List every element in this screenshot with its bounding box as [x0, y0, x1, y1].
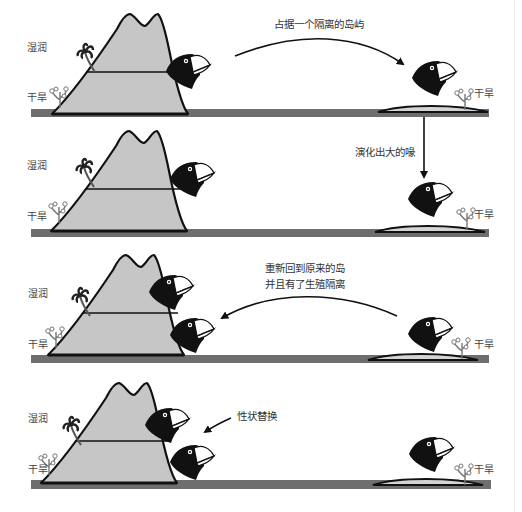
palm-tree-icon [77, 159, 94, 187]
label-dry: 干旱 [28, 464, 48, 476]
label-wet: 湿润 [28, 413, 48, 425]
palm-tree-icon [64, 417, 81, 445]
finch-head-large-beak-icon [409, 437, 453, 472]
label-wet: 湿润 [28, 288, 48, 300]
mainland-mountain [52, 14, 188, 114]
label-dry: 干旱 [28, 339, 48, 351]
panel-step-2: 湿润 干旱 干旱 演化出大的喙 [0, 125, 522, 250]
cactus-icon [457, 208, 475, 229]
displacement-arrow [205, 418, 231, 432]
migration-arrow [235, 39, 403, 64]
caption-step-3-line-1: 重新回到原来的岛 [265, 261, 345, 275]
label-dry: 干旱 [474, 88, 494, 100]
small-island [373, 479, 483, 485]
caption-step-3-line-2: 并且有了生殖隔离 [265, 277, 345, 291]
return-arrow [222, 297, 397, 318]
label-dry: 干旱 [27, 92, 47, 104]
caption-step-4: 性状替换 [237, 409, 277, 423]
panel-step-1: 湿润 干旱 干旱 占据一个隔离的岛屿 [0, 0, 522, 125]
finch-head-large-beak-icon [408, 317, 452, 352]
label-dry: 干旱 [474, 464, 494, 476]
panel-3-graphic [0, 250, 522, 380]
panel-2-graphic [0, 125, 522, 250]
caption-step-1: 占据一个隔离的岛屿 [274, 17, 364, 31]
label-wet: 湿润 [27, 160, 47, 172]
palm-tree-icon [73, 288, 90, 316]
finch-head-large-beak-icon [170, 445, 214, 480]
finch-head-icon [412, 61, 456, 96]
label-dry: 干旱 [474, 209, 494, 221]
panel-step-4: 湿润 干旱 干旱 性状替换 [0, 380, 522, 512]
caption-step-2: 演化出大的喙 [355, 145, 415, 159]
finch-head-large-beak-icon [408, 182, 452, 217]
panel-step-3: 湿润 干旱 干旱 重新回到原来的岛 并且有了生殖隔离 [0, 250, 522, 380]
label-dry: 干旱 [27, 211, 47, 223]
panel-1-graphic [0, 0, 522, 125]
label-dry: 干旱 [474, 339, 494, 351]
small-island [375, 226, 485, 232]
label-wet: 湿润 [27, 42, 47, 54]
finch-head-icon [170, 162, 214, 197]
panel-4-graphic [0, 380, 522, 512]
palm-tree-icon [78, 44, 95, 72]
mainland-mountain [51, 131, 187, 231]
small-island [378, 106, 488, 112]
